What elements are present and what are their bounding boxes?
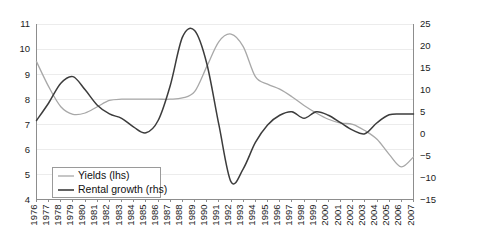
left-axis-tick-label: 6 xyxy=(25,144,30,155)
right-axis-tick-label: 10 xyxy=(420,84,431,95)
left-axis-tick-label: 10 xyxy=(19,43,30,54)
left-axis-tick-label: 8 xyxy=(25,94,30,105)
right-axis-tick-label: −15 xyxy=(420,194,436,205)
chart-container: 4567891011 −15−10−50510152025 1976197719… xyxy=(0,0,479,252)
x-axis-tick-label: 1987 xyxy=(161,205,172,226)
x-axis-tick-label: 2000 xyxy=(319,205,330,226)
x-axis-tick-label: 1990 xyxy=(198,205,209,226)
x-axis-tick-label: 1991 xyxy=(210,205,221,226)
x-axis-tick-label: 1977 xyxy=(40,205,51,226)
x-axis-tick-label: 1994 xyxy=(246,205,257,226)
x-axis-tick-label: 1980 xyxy=(76,205,87,226)
x-axis-tick-label: 1982 xyxy=(100,205,111,226)
left-axis-tick-label: 5 xyxy=(25,169,30,180)
left-axis-tick-label: 11 xyxy=(20,18,30,29)
line-chart: 4567891011 −15−10−50510152025 1976197719… xyxy=(0,0,479,252)
right-axis-tick-label: 20 xyxy=(420,40,431,51)
x-axis-tick-label: 2002 xyxy=(344,205,355,226)
x-axis-tick-label: 1996 xyxy=(271,205,282,226)
x-axis-tick-label: 2005 xyxy=(380,205,391,226)
x-axis-tick-label: 1981 xyxy=(88,205,99,226)
left-axis-tick-label: 9 xyxy=(25,69,30,80)
right-axis-tick-label: 0 xyxy=(420,128,425,139)
chart-legend: Yields (lhs)Rental growth (rhs) xyxy=(53,168,168,198)
x-axis-tick-label: 1993 xyxy=(234,205,245,226)
x-axis-tick-label: 1985 xyxy=(137,205,148,226)
x-axis-tick-label: 1989 xyxy=(186,205,197,226)
x-axis-tick-label: 1984 xyxy=(125,205,136,226)
x-axis-tick-label: 2001 xyxy=(332,205,343,226)
x-axis-tick-label: 1976 xyxy=(28,205,39,226)
legend-label-yields: Yields (lhs) xyxy=(78,169,130,181)
right-axis-tick-label: −5 xyxy=(420,150,431,161)
x-axis-tick-label: 1986 xyxy=(149,205,160,226)
x-axis-tick-label: 1978 xyxy=(52,205,63,226)
left-axis-tick-label: 7 xyxy=(25,119,30,130)
x-axis-tick-label: 2004 xyxy=(368,205,379,226)
x-axis-tick-label: 2007 xyxy=(405,205,416,226)
x-axis-tick-label: 1992 xyxy=(222,205,233,226)
left-axis-tick-label: 4 xyxy=(25,194,30,205)
right-axis-tick-label: 25 xyxy=(420,18,431,29)
x-axis-tick-label: 1999 xyxy=(307,205,318,226)
x-axis-tick-label: 1997 xyxy=(283,205,294,226)
x-axis-tick-label: 2003 xyxy=(356,205,367,226)
right-axis-tick-label: 5 xyxy=(420,106,425,117)
x-axis-tick-label: 1995 xyxy=(259,205,270,226)
legend-label-rental-growth: Rental growth (rhs) xyxy=(78,183,167,195)
right-axis-tick-label: −10 xyxy=(420,172,436,183)
x-axis-tick-label: 1983 xyxy=(113,205,124,226)
x-axis-tick-label: 1988 xyxy=(173,205,184,226)
x-axis-tick-label: 1979 xyxy=(64,205,75,226)
x-axis-tick-label: 1998 xyxy=(295,205,306,226)
x-axis-tick-label: 2006 xyxy=(392,205,403,226)
right-axis-tick-label: 15 xyxy=(420,62,431,73)
